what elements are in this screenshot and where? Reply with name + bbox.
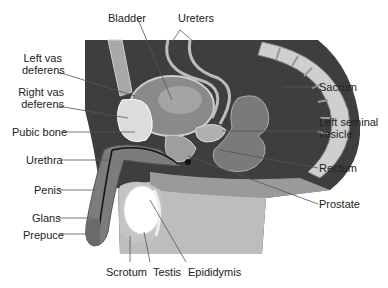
label-left-vas-deferens-line1: Left vas	[22, 52, 62, 64]
label-left-seminal-vesicle-line2: vesicle	[319, 128, 378, 140]
label-left-seminal-vesicle-line1: Left seminal	[319, 116, 378, 128]
label-left-seminal-vesicle: Left seminal vesicle	[319, 116, 378, 140]
label-glans: Glans	[32, 212, 61, 224]
label-urethra: Urethra	[26, 154, 63, 166]
label-prepuce: Prepuce	[23, 229, 64, 241]
anatomy-illustration	[0, 0, 388, 288]
label-right-vas-deferens-line1: Right vas	[18, 86, 64, 98]
label-ureters: Ureters	[178, 12, 214, 24]
label-bladder: Bladder	[108, 12, 146, 24]
label-pubic-bone: Pubic bone	[12, 126, 67, 138]
label-testis: Testis	[153, 266, 181, 278]
label-epididymis: Epididymis	[188, 266, 241, 278]
label-sacrum: Sacrum	[319, 81, 357, 93]
label-left-vas-deferens: Left vas deferens	[22, 52, 62, 76]
label-left-vas-deferens-line2: deferens	[22, 64, 62, 76]
label-penis: Penis	[34, 184, 62, 196]
label-rectum: Rectum	[319, 162, 357, 174]
label-prostate: Prostate	[319, 198, 360, 210]
label-scrotum: Scrotum	[106, 266, 147, 278]
label-right-vas-deferens-line2: deferens	[18, 98, 64, 110]
label-right-vas-deferens: Right vas deferens	[18, 86, 64, 110]
